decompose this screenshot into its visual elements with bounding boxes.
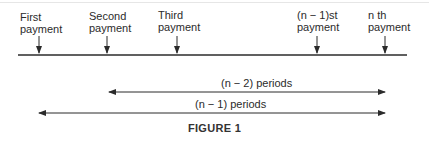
diagram-graphics (0, 0, 429, 142)
span-label-n-minus-1: (n − 1) periods (195, 98, 266, 110)
span-label-n-minus-2: (n − 2) periods (221, 77, 292, 89)
figure-caption: FIGURE 1 (0, 122, 429, 134)
payment-arrows (39, 36, 385, 53)
